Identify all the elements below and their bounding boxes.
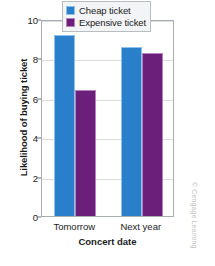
y-axis-tick-label: 0 (14, 212, 38, 223)
bar (75, 90, 96, 216)
y-axis-tick-label: 4 (14, 133, 38, 144)
bar (121, 47, 142, 216)
legend-swatch-icon (66, 18, 75, 27)
y-axis-tick-label: 6 (14, 93, 38, 104)
legend-item: Expensive ticket (66, 16, 146, 28)
x-axis-title: Concert date (41, 236, 174, 247)
legend-item-label: Expensive ticket (79, 17, 146, 28)
y-axis-tick-label: 2 (14, 172, 38, 183)
plot-area (41, 20, 174, 217)
bar (142, 53, 163, 216)
legend-item-label: Cheap ticket (79, 5, 131, 16)
copyright-credit: © Cengage Learning (191, 182, 198, 266)
legend-swatch-icon (66, 6, 75, 15)
bar-chart-figure: Likelihood of buying ticket 0246810 Chea… (0, 0, 215, 266)
x-axis-tick-label: Next year (120, 221, 161, 232)
y-axis-tick-label: 8 (14, 54, 38, 65)
legend-item: Cheap ticket (66, 4, 146, 16)
y-axis-tick-label: 10 (14, 15, 38, 26)
bar (54, 35, 75, 216)
chart-legend: Cheap ticketExpensive ticket (62, 1, 151, 32)
x-axis-tick-label: Tomorrow (53, 221, 95, 232)
